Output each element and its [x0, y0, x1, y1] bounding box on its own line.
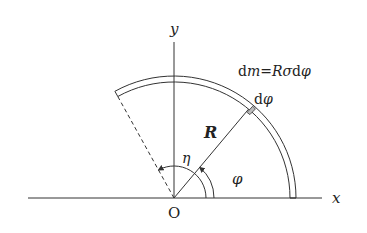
element-label-d: d	[254, 91, 263, 107]
origin-label: O	[168, 204, 180, 222]
formula-d: d	[238, 63, 247, 79]
element-label-phi: φ	[263, 91, 273, 107]
formula-d2: d	[292, 63, 301, 79]
dashed-boundary-line	[118, 97, 174, 199]
element-label: dφ	[254, 91, 273, 107]
radius-label: R	[203, 123, 217, 142]
phi-label: φ	[232, 170, 243, 188]
y-axis-label: y	[169, 20, 179, 38]
formula-sigma: σ	[283, 63, 293, 79]
x-axis-label: x	[332, 189, 341, 207]
eta-label: η	[182, 150, 191, 166]
eta-angle-arc	[159, 166, 207, 198]
formula-r: R	[271, 63, 283, 79]
arc-cap-left	[115, 91, 118, 96]
formula-phi: φ	[301, 63, 311, 79]
formula-m: m	[247, 63, 260, 79]
arc-diagram: y x O R η φ dφ dm=Rσdφ	[0, 0, 367, 233]
formula-eq: =	[260, 63, 272, 79]
mass-formula-label: dm=Rσdφ	[238, 63, 311, 79]
